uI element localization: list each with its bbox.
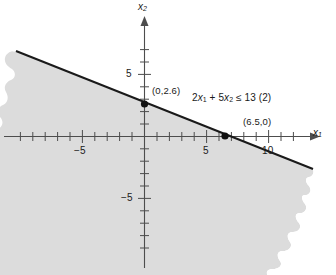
equation-tag: (2) bbox=[259, 92, 272, 103]
point-label-x-intercept: (6.5,0) bbox=[243, 117, 271, 127]
x-tick-label-10: 10 bbox=[262, 146, 273, 156]
equation-rhs: 13 bbox=[244, 92, 255, 103]
x-tick-label-neg5: −5 bbox=[74, 146, 86, 156]
y-tick-label-5: 5 bbox=[126, 69, 132, 79]
inequality-graph-figure: x1 x2 −5 5 10 5 −5 (0,2.6) (6.5,0) 2x1 +… bbox=[0, 0, 336, 275]
point-y-intercept bbox=[141, 100, 148, 107]
x-axis-label: x1 bbox=[313, 128, 322, 138]
equation-var1-subscript: 1 bbox=[203, 96, 207, 103]
y-axis-label-subscript: 2 bbox=[143, 5, 147, 12]
x-tick-label-5: 5 bbox=[203, 146, 209, 156]
equation-plus-operator: + bbox=[210, 92, 216, 103]
point-x-intercept bbox=[221, 132, 228, 139]
y-axis-label: x2 bbox=[138, 2, 147, 12]
point-label-y-intercept: (0,2.6) bbox=[152, 86, 180, 96]
equation-var2-subscript: 2 bbox=[229, 96, 233, 103]
y-tick-label-neg5: −5 bbox=[121, 193, 133, 203]
x-axis-label-subscript: 1 bbox=[318, 131, 322, 138]
equation-relation-operator: ≤ bbox=[236, 92, 242, 103]
plot-canvas bbox=[0, 0, 336, 275]
constraint-equation-label: 2x1 + 5x2 ≤ 13 (2) bbox=[192, 93, 271, 103]
